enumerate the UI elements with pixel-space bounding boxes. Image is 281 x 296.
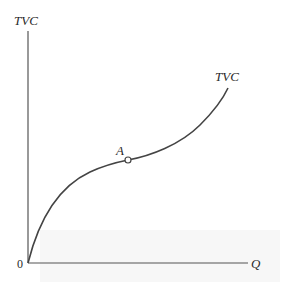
tvc-chart: TVC Q 0 A TVC [0, 0, 281, 296]
curve-label: TVC [215, 69, 239, 84]
origin-label: 0 [17, 257, 23, 271]
background-band [40, 230, 280, 282]
y-axis-label: TVC [14, 13, 38, 28]
x-axis-label: Q [251, 256, 261, 271]
point-a-label: A [115, 143, 124, 158]
point-a-marker [125, 157, 131, 163]
